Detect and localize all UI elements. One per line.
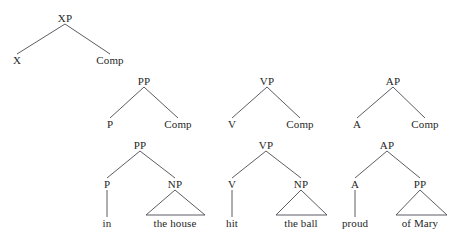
nonterminal-node-label: Comp: [286, 119, 313, 130]
terminal-node-label: the house: [154, 218, 197, 229]
tree-edge: [107, 151, 140, 178]
nonterminal-node-label: Comp: [411, 119, 438, 130]
tree-edge: [65, 24, 110, 54]
nonterminal-node-label: Comp: [96, 55, 123, 66]
tree-edge: [110, 87, 144, 118]
tree-edge: [140, 151, 175, 178]
nonterminal-node-label: AP: [380, 140, 394, 151]
tree-edge: [232, 151, 266, 178]
tree-edges-layer: [0, 0, 452, 240]
nonterminal-node-label: XP: [58, 13, 72, 24]
terminal-node-label: the ball: [284, 218, 317, 229]
tree-edge: [267, 87, 300, 118]
nonterminal-node-label: P: [104, 179, 110, 190]
terminal-node-label: proud: [342, 218, 368, 229]
nonterminal-node-label: P: [107, 119, 113, 130]
tree-edge: [144, 87, 178, 118]
constituent-triangle: [396, 190, 447, 215]
tree-edge: [17, 24, 65, 54]
terminal-node-label: of Mary: [402, 218, 438, 229]
tree-edge: [357, 87, 393, 118]
nonterminal-node-label: PP: [138, 76, 150, 87]
phrase-structure-diagram: XPXCompPPPCompVPVCompAPACompPPPNPinthe h…: [0, 0, 452, 240]
nonterminal-node-label: A: [351, 179, 359, 190]
nonterminal-node-label: NP: [294, 179, 308, 190]
nonterminal-node-label: VP: [260, 76, 274, 87]
nonterminal-node-label: PP: [134, 140, 146, 151]
nonterminal-node-label: Comp: [164, 119, 191, 130]
nonterminal-node-label: PP: [414, 179, 426, 190]
tree-edge: [232, 87, 267, 118]
nonterminal-node-label: NP: [168, 179, 182, 190]
nonterminal-node-label: A: [353, 119, 361, 130]
tree-edge: [387, 151, 420, 178]
tree-edge: [355, 151, 387, 178]
tree-edge: [266, 151, 301, 178]
constituent-triangle: [276, 190, 327, 215]
nonterminal-node-label: V: [228, 119, 236, 130]
constituent-triangle: [146, 190, 205, 215]
tree-edge: [393, 87, 425, 118]
nonterminal-node-label: VP: [259, 140, 273, 151]
nonterminal-node-label: V: [228, 179, 236, 190]
terminal-node-label: in: [103, 218, 112, 229]
terminal-node-label: hit: [226, 218, 238, 229]
nonterminal-node-label: AP: [386, 76, 400, 87]
nonterminal-node-label: X: [13, 55, 21, 66]
